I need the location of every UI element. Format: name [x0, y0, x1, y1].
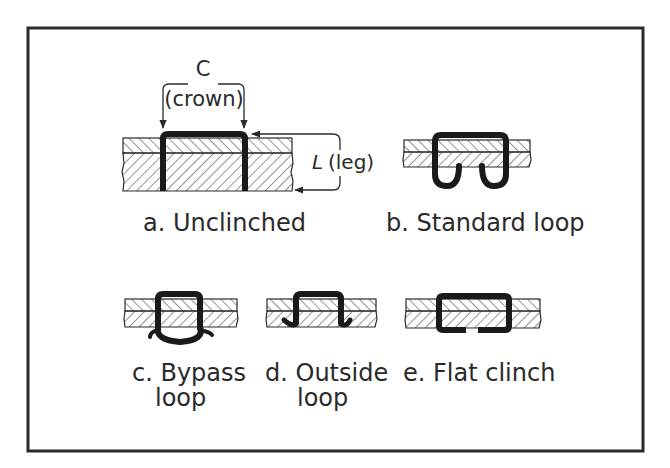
leg-label: (leg) — [328, 150, 374, 174]
caption-b: b. Standard loop — [386, 209, 585, 237]
caption-d-line2: loop — [297, 384, 348, 412]
panel-a-unclinched: C (crown) L (leg) a. Unclinched — [122, 57, 374, 237]
leg-symbol: L — [312, 150, 323, 174]
staple-clinch-diagram: C (crown) L (leg) a. Unclinched b. Stand… — [0, 0, 670, 468]
caption-d-line1: d. Outside — [265, 359, 388, 387]
crown-dimension: C (crown) — [163, 57, 244, 128]
panel-b-standard-loop: b. Standard loop — [386, 135, 585, 237]
crown-label: (crown) — [164, 87, 243, 111]
panel-c-bypass-loop: c. Bypass loop — [124, 294, 246, 412]
panel-d-outside-loop: d. Outside loop — [265, 294, 388, 412]
caption-a: a. Unclinched — [143, 209, 306, 237]
crown-symbol: C — [196, 57, 211, 81]
panel-e-flat-clinch: e. Flat clinch — [403, 296, 555, 387]
caption-c-line2: loop — [155, 384, 206, 412]
caption-e: e. Flat clinch — [403, 359, 555, 387]
caption-c-line1: c. Bypass — [132, 359, 246, 387]
